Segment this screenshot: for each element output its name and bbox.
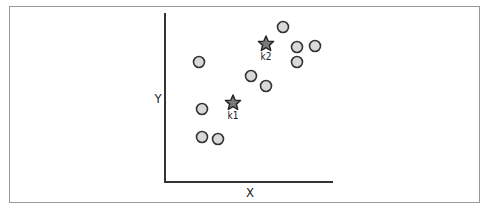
- data-point-circle-icon: [310, 41, 321, 52]
- data-point-circle-icon: [197, 104, 208, 115]
- star-icon: [225, 95, 240, 110]
- centroid-k1: k1: [225, 95, 240, 121]
- centroid-k2: k2: [258, 36, 273, 62]
- data-point-circle-icon: [213, 134, 224, 145]
- y-axis-label: Y: [153, 91, 162, 106]
- data-point-circle-icon: [261, 81, 272, 92]
- star-icon: [258, 36, 273, 51]
- scatter-diagram: Y X k1k2: [0, 0, 486, 209]
- data-point-circle-icon: [292, 57, 303, 68]
- data-points: [194, 22, 321, 145]
- data-point-circle-icon: [197, 132, 208, 143]
- data-point-circle-icon: [194, 57, 205, 68]
- data-point-circle-icon: [292, 42, 303, 53]
- data-point-circle-icon: [246, 71, 257, 82]
- centroid-label: k2: [261, 51, 272, 62]
- x-axis-label: X: [246, 185, 254, 200]
- centroid-label: k1: [228, 110, 239, 121]
- data-point-circle-icon: [278, 22, 289, 33]
